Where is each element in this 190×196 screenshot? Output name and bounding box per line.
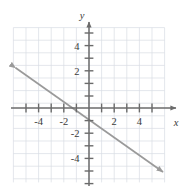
y-tick-label-4: 4 <box>74 41 80 52</box>
coordinate-plane-figure: -4 -2 2 4 4 2 -2 -4 y x <box>0 0 190 196</box>
x-tick-label-4: 4 <box>137 116 143 127</box>
y-tick-label-neg2: -2 <box>71 128 80 139</box>
x-tick-label-2: 2 <box>112 116 117 127</box>
x-tick-label-neg4: -4 <box>34 116 43 127</box>
y-axis-label: y <box>79 10 85 21</box>
x-axis <box>11 104 176 113</box>
y-axis <box>85 22 94 186</box>
y-tick-label-neg4: -4 <box>71 153 80 164</box>
x-tick-label-neg2: -2 <box>59 116 68 127</box>
y-tick-label-2: 2 <box>74 66 79 77</box>
x-axis-label: x <box>173 117 179 128</box>
graph-canvas: -4 -2 2 4 4 2 -2 -4 y x <box>0 0 190 196</box>
